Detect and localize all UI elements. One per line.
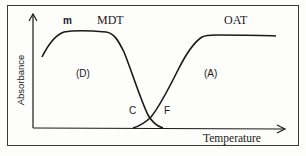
mdt-curve — [42, 31, 163, 128]
absorbance-temperature-diagram: m MDT OAT (D) (A) C F Absorbance Tempera… — [0, 0, 306, 156]
region-d-label: (D) — [76, 69, 90, 79]
point-c-label: C — [129, 106, 136, 116]
oat-curve — [133, 35, 276, 128]
mdt-label: MDT — [97, 14, 124, 26]
region-a-label: (A) — [204, 69, 217, 79]
y-axis — [29, 14, 37, 128]
point-f-label: F — [164, 106, 170, 116]
x-axis-label: Temperature — [203, 133, 261, 145]
oat-label: OAT — [224, 14, 247, 26]
m-label: m — [63, 16, 72, 26]
y-axis-label: Absorbance — [15, 55, 26, 106]
